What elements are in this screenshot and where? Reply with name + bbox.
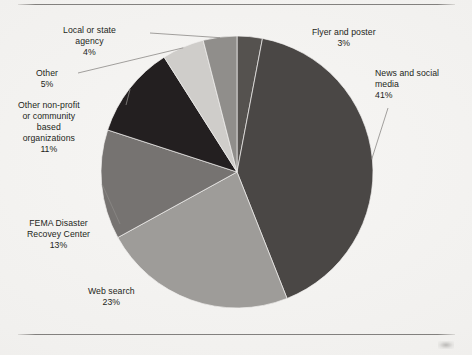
pie-label-other-non-profit-organizations: Other non-profit or community based orga… — [18, 100, 80, 155]
pie-leader-line — [372, 108, 388, 159]
pie-label-other: Other 5% — [36, 68, 58, 90]
document-page: Flyer and poster 3% News and social medi… — [0, 0, 472, 355]
scan-artifact-smudge — [438, 341, 454, 349]
pie-label-news-and-social-media: News and social media 41% — [375, 68, 439, 101]
pie-label-web-search: Web search 23% — [88, 286, 135, 308]
pie-label-fema-disaster-recovery-center: FEMA Disaster Recovey Center 13% — [27, 218, 90, 251]
bottom-horizontal-rule — [18, 334, 455, 335]
pie-label-local-or-state-agency: Local or state agency 4% — [63, 25, 116, 58]
pie-leader-line — [150, 33, 220, 38]
pie-label-flyer-and-poster: Flyer and poster 3% — [312, 27, 376, 49]
pie-chart: Flyer and poster 3% News and social medi… — [0, 0, 472, 355]
